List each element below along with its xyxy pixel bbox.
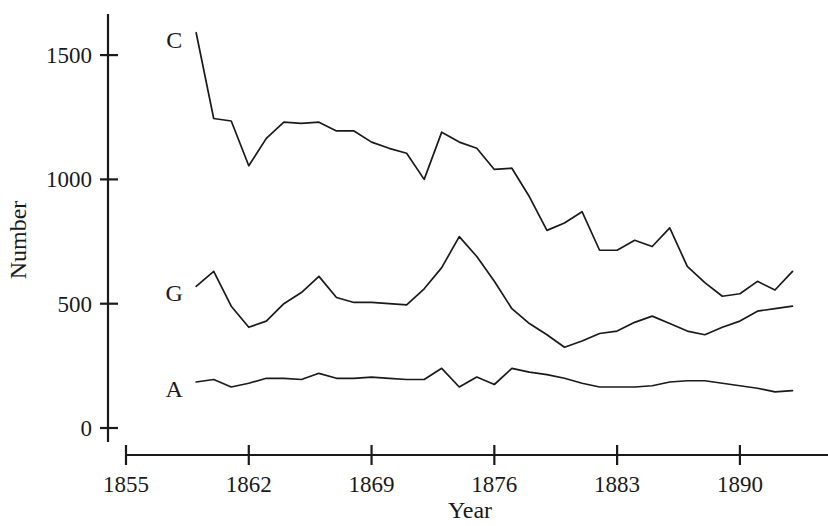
x-axis: 185518621869187618831890 Year: [103, 445, 828, 523]
x-axis-title: Year: [448, 497, 492, 523]
y-tick-label: 500: [58, 292, 93, 317]
line-chart-figure: 050010001500 Number 18551862186918761883…: [0, 0, 828, 526]
x-tick-label: 1855: [103, 472, 149, 497]
x-tick-label: 1876: [471, 472, 517, 497]
series-label-a: A: [165, 376, 183, 402]
y-tick-label: 1000: [46, 167, 92, 192]
series-line-g: [196, 237, 792, 348]
y-axis-title: Number: [5, 201, 31, 280]
chart-canvas: 050010001500 Number 18551862186918761883…: [0, 0, 828, 526]
x-tick-label: 1883: [594, 472, 640, 497]
y-axis: 050010001500 Number: [5, 14, 118, 442]
x-tick-label: 1890: [717, 472, 763, 497]
y-tick-label: 1500: [46, 43, 92, 68]
y-tick-labels: 050010001500: [46, 43, 92, 441]
series-label-g: G: [165, 280, 182, 306]
x-tick-label: 1869: [349, 472, 395, 497]
series-labels: CGA: [165, 27, 183, 402]
series-line-c: [196, 33, 792, 297]
x-tick-label: 1862: [226, 472, 272, 497]
series-lines: [196, 33, 792, 392]
series-line-a: [196, 368, 792, 392]
y-tick-label: 0: [81, 416, 93, 441]
x-tick-labels: 185518621869187618831890: [103, 472, 763, 497]
series-label-c: C: [166, 27, 182, 53]
